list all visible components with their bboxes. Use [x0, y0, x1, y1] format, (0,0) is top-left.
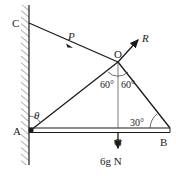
label-angle-O-left: 60°: [100, 79, 114, 90]
label-B: B: [160, 136, 167, 148]
label-A: A: [13, 125, 21, 137]
label-G: G: [114, 136, 122, 148]
label-O: O: [114, 48, 122, 60]
rod-AB: [29, 128, 170, 133]
label-weight: 6g N: [100, 155, 122, 167]
string-CO: [29, 23, 118, 62]
string-OB: [118, 62, 170, 128]
force-P-arrowhead: [66, 44, 73, 48]
label-C: C: [12, 17, 19, 29]
force-diagram: C O A B G P R 6g N θ 60° 60° 30°: [0, 0, 176, 176]
wall-hatching: [21, 5, 29, 165]
label-angle-B: 30°: [130, 117, 144, 128]
label-angle-O-right: 60°: [121, 79, 135, 90]
line-AO: [31, 62, 118, 130]
label-P: P: [67, 30, 75, 42]
label-R: R: [141, 32, 149, 44]
label-theta: θ: [34, 109, 40, 121]
angle-arc-B: [150, 114, 157, 128]
